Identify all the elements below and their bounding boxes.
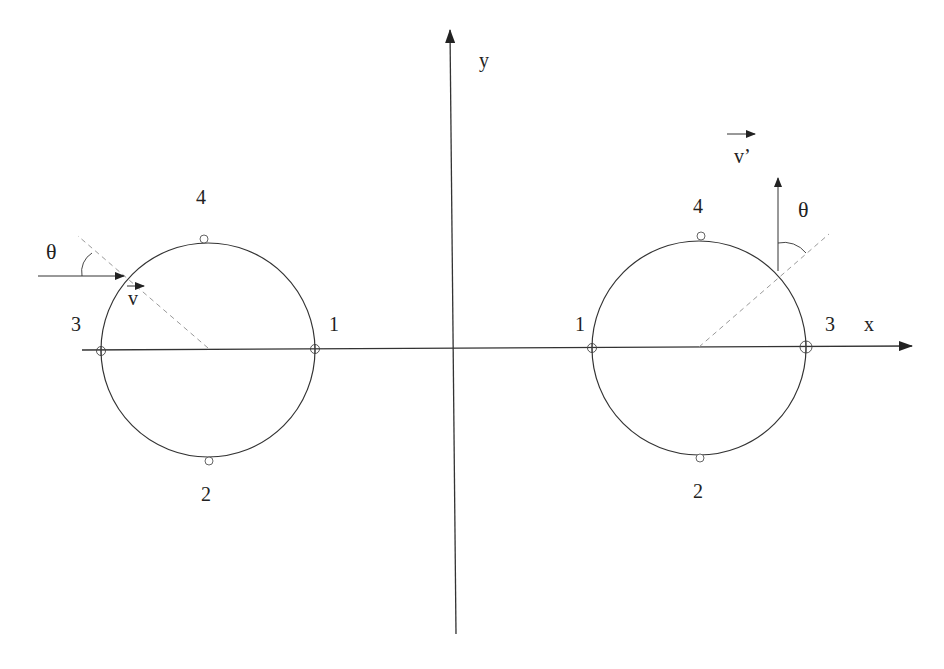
right-radial-dashed-line xyxy=(699,234,829,347)
left-point-4-marker xyxy=(200,235,208,243)
right-point-4-label: 4 xyxy=(693,195,703,217)
right-point-4-marker xyxy=(697,232,705,240)
diagram-canvas: y x 4 2 3 1 θ v xyxy=(0,0,944,669)
right-point-3-label: 3 xyxy=(825,313,835,335)
right-v-prime-label: v’ xyxy=(734,145,751,167)
y-axis xyxy=(450,30,456,634)
left-point-3-marker xyxy=(97,346,106,356)
left-point-4-label: 4 xyxy=(196,186,206,208)
right-point-2-label: 2 xyxy=(693,480,703,502)
x-axis-label: x xyxy=(864,313,874,335)
right-circle xyxy=(588,134,830,462)
left-angle-arc xyxy=(82,253,92,276)
right-theta-label: θ xyxy=(798,197,809,222)
left-point-3-label: 3 xyxy=(71,313,81,335)
left-point-2-label: 2 xyxy=(201,483,211,505)
left-theta-label: θ xyxy=(46,239,57,264)
left-radial-dashed-line xyxy=(78,236,208,348)
right-point-2-marker xyxy=(696,454,704,462)
left-v-label: v xyxy=(128,287,138,309)
right-point-1-label: 1 xyxy=(575,313,585,335)
left-point-2-marker xyxy=(205,457,213,465)
y-axis-label: y xyxy=(479,49,489,72)
left-point-1-label: 1 xyxy=(329,313,339,335)
right-angle-arc xyxy=(778,242,806,253)
